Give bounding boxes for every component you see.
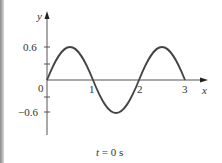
y-axis-label: y	[36, 10, 42, 22]
y-tick-label-neg: −0.6	[18, 106, 38, 118]
x-axis-label: x	[201, 84, 207, 96]
y-tick-label-pos: 0.6	[23, 41, 37, 53]
x-tick-label-0: 0	[38, 82, 44, 94]
time-caption: t = 0 s	[96, 146, 123, 158]
wave-chart: y x 0.6 −0.6 0 1 2 3 t = 0 s	[0, 0, 222, 163]
x-axis-arrow-icon	[200, 78, 208, 83]
x-tick-label-1: 1	[89, 83, 95, 95]
y-axis-arrow-icon	[45, 11, 50, 19]
x-tick-label-2: 2	[137, 83, 143, 95]
x-tick-label-3: 3	[182, 83, 188, 95]
